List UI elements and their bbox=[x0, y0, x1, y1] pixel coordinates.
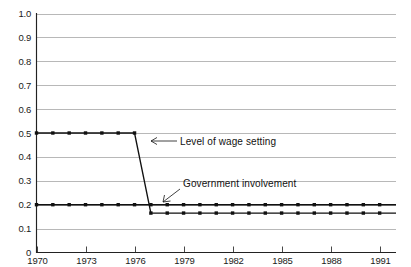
y-axis-tick-label: 0.6 bbox=[18, 104, 31, 115]
data-point-marker bbox=[296, 211, 299, 214]
x-axis-tick-label: 1982 bbox=[223, 255, 243, 266]
data-point-marker bbox=[117, 131, 120, 134]
data-point-marker bbox=[166, 211, 169, 214]
data-point-marker bbox=[100, 131, 103, 134]
data-point-marker bbox=[313, 211, 316, 214]
data-point-marker bbox=[100, 203, 103, 206]
data-point-marker bbox=[149, 211, 152, 214]
data-point-marker bbox=[280, 211, 283, 214]
data-point-marker bbox=[264, 203, 267, 206]
data-point-marker bbox=[296, 203, 299, 206]
data-point-marker bbox=[215, 211, 218, 214]
y-axis-tick-label: 0.3 bbox=[18, 175, 31, 186]
data-point-marker bbox=[182, 203, 185, 206]
data-point-marker bbox=[329, 211, 332, 214]
data-point-marker bbox=[247, 203, 250, 206]
data-point-marker bbox=[345, 203, 348, 206]
government-involvement-annotation-label: Government involvement bbox=[183, 178, 296, 189]
data-point-marker bbox=[67, 131, 70, 134]
x-axis-tick-label: 1988 bbox=[321, 255, 341, 266]
data-point-marker bbox=[313, 203, 316, 206]
data-point-marker bbox=[117, 203, 120, 206]
data-point-marker bbox=[378, 211, 381, 214]
data-point-marker bbox=[231, 211, 234, 214]
y-axis-tick-label: 0.1 bbox=[18, 223, 31, 234]
data-point-marker bbox=[231, 203, 234, 206]
x-axis-tick-label: 1985 bbox=[272, 255, 292, 266]
data-point-marker bbox=[166, 203, 169, 206]
data-point-marker bbox=[215, 203, 218, 206]
y-axis-tick-label: 0.2 bbox=[18, 199, 31, 210]
data-point-marker bbox=[35, 131, 38, 134]
data-point-marker bbox=[280, 203, 283, 206]
data-point-marker bbox=[84, 203, 87, 206]
data-point-marker bbox=[198, 211, 201, 214]
data-point-marker bbox=[133, 131, 136, 134]
x-axis-tick-label: 1976 bbox=[125, 255, 145, 266]
data-point-marker bbox=[133, 203, 136, 206]
data-point-marker bbox=[345, 211, 348, 214]
y-axis-tick-label: 0.7 bbox=[18, 80, 31, 91]
data-point-marker bbox=[378, 203, 381, 206]
chart-container: 00.10.20.30.40.50.60.70.80.91.0 19701973… bbox=[0, 0, 411, 267]
y-axis-tick-label: 0.9 bbox=[18, 32, 31, 43]
data-point-marker bbox=[182, 211, 185, 214]
data-point-marker bbox=[362, 211, 365, 214]
x-axis-tick-label: 1991 bbox=[370, 255, 390, 266]
x-axis-tick-label: 1973 bbox=[76, 255, 96, 266]
data-point-marker bbox=[149, 203, 152, 206]
wage-setting-annotation-label: Level of wage setting bbox=[180, 136, 276, 147]
data-point-marker bbox=[329, 203, 332, 206]
line-chart: 00.10.20.30.40.50.60.70.80.91.0 19701973… bbox=[0, 0, 411, 267]
x-axis-tick-label: 1970 bbox=[27, 255, 47, 266]
data-point-marker bbox=[67, 203, 70, 206]
y-axis-tick-label: 0.8 bbox=[18, 56, 31, 67]
data-point-marker bbox=[264, 211, 267, 214]
data-point-marker bbox=[362, 203, 365, 206]
y-axis-tick-label: 1.0 bbox=[18, 8, 31, 19]
data-point-marker bbox=[198, 203, 201, 206]
data-point-marker bbox=[84, 131, 87, 134]
x-axis-tick-label: 1979 bbox=[174, 255, 194, 266]
data-point-marker bbox=[247, 211, 250, 214]
data-point-marker bbox=[35, 203, 38, 206]
y-axis-tick-label: 0.4 bbox=[18, 151, 31, 162]
data-point-marker bbox=[51, 131, 54, 134]
y-axis-tick-label: 0.5 bbox=[18, 128, 31, 139]
data-point-marker bbox=[51, 203, 54, 206]
